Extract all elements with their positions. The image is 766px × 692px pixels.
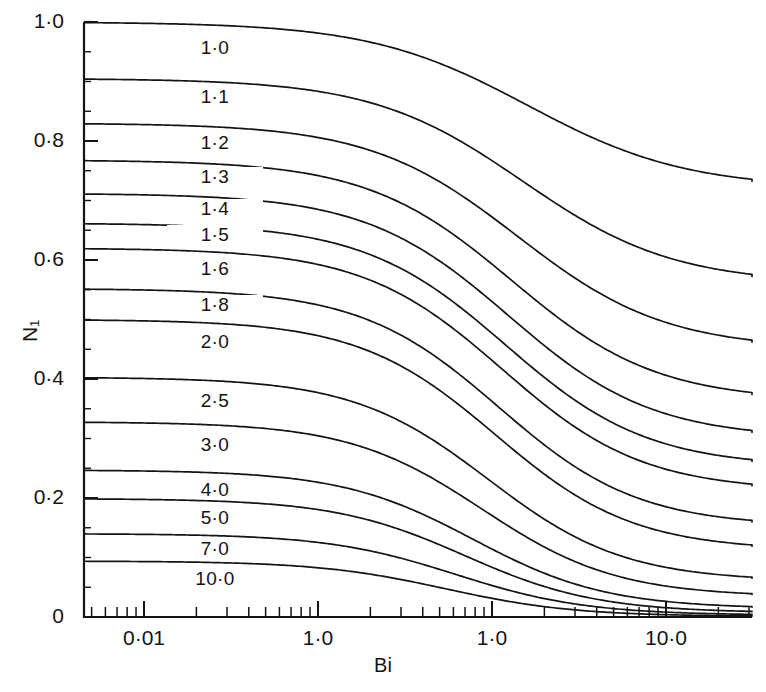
curve-label-10-0: 10·0 [167,569,263,588]
curve-label-1-3: 1·3 [167,167,263,186]
curve-label-1-2: 1·2 [167,133,263,152]
y-tick-label: 0·4 [0,367,64,388]
x-tick-label: 1·0 [268,627,368,648]
y-tick-label: 0 [0,605,64,626]
curve-label-1-0: 1·0 [167,38,263,57]
curve-label-4-0: 4·0 [167,480,263,499]
y-tick-label: 0·6 [0,248,64,269]
curve-label-1-8: 1·8 [167,295,263,314]
y-axis-title-text: N₁ [18,302,42,342]
data-curves [85,23,752,616]
curve-label-2-5: 2·5 [167,391,263,410]
curve-label-1-6: 1·6 [167,259,263,278]
axis-lines [84,22,752,617]
x-axis-title: Bi [0,655,766,675]
x-tick-label: 10·0 [616,627,716,648]
chart-plot-area [0,0,766,692]
x-tick-label: 0·01 [94,627,194,648]
curve-label-1-4: 1·4 [167,199,263,218]
y-tick-label: 0·2 [0,486,64,507]
chart-figure: N₁ Bi 00·20·40·60·81·0 0·011·01·010·0 1·… [0,0,766,692]
x-tick-label: 1·0 [442,627,542,648]
y-tick-label: 1·0 [0,10,64,31]
curve-label-1-1: 1·1 [167,87,263,106]
curve-label-2-0: 2·0 [167,332,263,351]
curve-label-1-5: 1·5 [167,225,263,244]
curve-label-5-0: 5·0 [167,508,263,527]
y-axis-title: N₁ [10,310,50,350]
curve-label-7-0: 7·0 [167,539,263,558]
curve-label-3-0: 3·0 [167,435,263,454]
y-tick-label: 0·8 [0,129,64,150]
